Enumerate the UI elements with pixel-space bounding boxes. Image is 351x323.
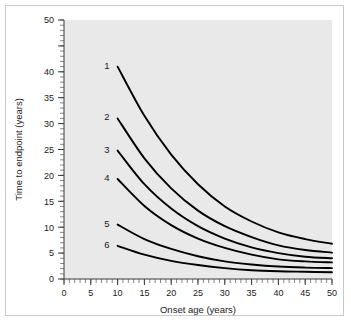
chart-root: 05101520253035404550 051015202530354050 … <box>6 6 343 315</box>
y-tick-label: 20 <box>44 171 54 181</box>
x-tick-label: 25 <box>193 288 203 298</box>
curve-label-5: 5 <box>104 218 109 229</box>
x-tick-label: 15 <box>139 288 149 298</box>
y-axis-title: Time to endpoint (years) <box>13 98 24 201</box>
curve-label-1: 1 <box>104 60 109 71</box>
curve-label-4: 4 <box>104 172 109 183</box>
curve-label-3: 3 <box>104 144 109 155</box>
x-tick-label: 20 <box>166 288 176 298</box>
x-tick-label: 0 <box>61 288 66 298</box>
y-tick-label: 0 <box>49 274 54 284</box>
x-tick-label: 40 <box>273 288 283 298</box>
figure-card: 05101520253035404550 051015202530354050 … <box>5 5 344 316</box>
x-tick-label: 45 <box>300 288 310 298</box>
x-tick-label: 10 <box>113 288 123 298</box>
y-tick-label: 25 <box>44 145 54 155</box>
x-axis-tick-labels: 05101520253035404550 <box>61 288 337 298</box>
curve-label-2: 2 <box>104 111 109 122</box>
x-tick-label: 35 <box>247 288 257 298</box>
x-tick-label: 30 <box>220 288 230 298</box>
x-tick-label: 5 <box>88 288 93 298</box>
x-tick-label: 50 <box>327 288 337 298</box>
x-axis-major-ticks <box>64 279 332 285</box>
y-tick-label: 10 <box>44 223 54 233</box>
y-tick-label: 50 <box>44 15 54 25</box>
y-tick-label: 35 <box>44 93 54 103</box>
time-to-endpoint-vs-onset-age-chart: 05101520253035404550 051015202530354050 … <box>6 6 343 315</box>
y-tick-label: 40 <box>44 67 54 77</box>
y-tick-label: 5 <box>49 248 54 258</box>
y-tick-label: 30 <box>44 119 54 129</box>
y-axis-tick-labels: 051015202530354050 <box>44 15 54 284</box>
x-axis-title: Onset age (years) <box>160 304 236 315</box>
y-axis-major-ticks <box>58 20 64 279</box>
y-tick-label: 15 <box>44 197 54 207</box>
curve-label-6: 6 <box>104 239 109 250</box>
